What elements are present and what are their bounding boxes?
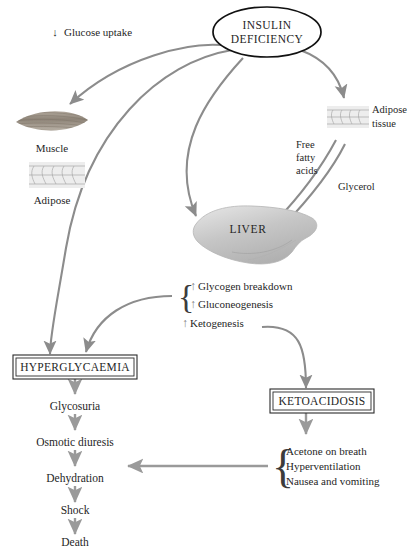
cascade-item-osmotic-diuresis: Osmotic diuresis: [36, 436, 114, 448]
ffa-line3: acids: [296, 165, 318, 176]
adipose-illustration: Adipose: [29, 162, 85, 206]
insulin-deficiency-node: INSULIN DEFICIENCY: [213, 7, 321, 57]
muscle-illustration: Muscle: [14, 111, 92, 154]
down-arrow-icon: ↓: [52, 26, 58, 38]
arrow-ketogenesis-to-ketoacidosis: [262, 327, 306, 388]
adipose-label: Adipose: [34, 194, 71, 206]
up-arrow-icon-gluconeogenesis: ↑: [190, 297, 196, 311]
insulin-deficiency-line2: DEFICIENCY: [231, 33, 304, 45]
symptom-hyperventilation: Hyperventilation: [286, 460, 361, 472]
symptom-nausea-and-vomiting: Nausea and vomiting: [286, 475, 380, 487]
glucose-uptake-label: ↓ Glucose uptake: [52, 26, 132, 38]
ketoacidosis-node: KETOACIDOSIS: [270, 389, 374, 413]
glycogen-breakdown-label: Glycogen breakdown: [198, 280, 293, 292]
cascade-item-glycosuria: Glycosuria: [50, 400, 100, 413]
arrow-insulin-to-liver: [187, 58, 243, 216]
liver-label: LIVER: [230, 223, 267, 235]
muscle-label: Muscle: [36, 142, 69, 154]
glucose-uptake-text: Glucose uptake: [64, 26, 132, 38]
adipose-tissue-illustration: Adipose tissue: [327, 104, 407, 129]
cascade-item-shock: Shock: [61, 504, 90, 516]
ketoacidosis-label: KETOACIDOSIS: [278, 395, 365, 407]
ffa-line1: Free: [296, 139, 315, 150]
ffa-line2: fatty: [296, 152, 316, 163]
cascade-item-dehydration: Dehydration: [46, 472, 104, 485]
adipose-tissue-line2: tissue: [372, 118, 396, 129]
arrow-liver-output-to-hyperglycaemia: [86, 296, 172, 352]
arrow-insulin-to-adipose-tissue: [300, 50, 344, 98]
free-fatty-acids-label: Free fatty acids: [296, 139, 318, 176]
insulin-deficiency-line1: INSULIN: [243, 19, 292, 31]
ketogenesis-label: Ketogenesis: [190, 317, 244, 329]
gluconeogenesis-label: Gluconeogenesis: [198, 298, 273, 310]
up-arrow-icon-ketogenesis: ↑: [182, 316, 188, 330]
adipose-tissue-line1: Adipose: [372, 104, 407, 115]
insulin-deficiency-diagram: INSULIN DEFICIENCY ↓ Glucose uptake Musc…: [0, 0, 407, 549]
hyperglycaemia-node: HYPERGLYCAEMIA: [13, 355, 137, 379]
cascade-item-death: Death: [61, 536, 89, 548]
muscle-fiber-icon: [16, 111, 88, 130]
insulin-deficiency-ellipse: [213, 7, 321, 57]
liver-illustration: LIVER: [193, 206, 317, 264]
liver-processes: { ↑ Glycogen breakdown ↑ Gluconeogenesis…: [178, 278, 293, 330]
hyperglycaemia-label: HYPERGLYCAEMIA: [20, 361, 130, 373]
symptom-acetone-on-breath: Acetone on breath: [286, 445, 367, 457]
ketoacidosis-symptoms: { Acetone on breath Hyperventilation Nau…: [272, 441, 380, 492]
glycerol-label: Glycerol: [338, 181, 375, 192]
arrow-insulin-to-muscle: [70, 45, 230, 104]
up-arrow-icon-glycogen: ↑: [190, 279, 196, 293]
